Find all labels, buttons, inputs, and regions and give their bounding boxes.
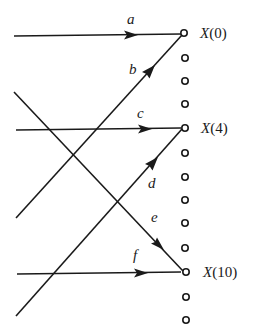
edge-label-d: d: [148, 175, 156, 191]
node-8: [182, 220, 188, 226]
node-6: [182, 174, 188, 180]
edge-e: e: [14, 92, 183, 271]
edge-label-e: e: [151, 209, 158, 225]
node-12: [183, 317, 189, 323]
edge-f: f: [17, 247, 181, 278]
edge-label-b: b: [129, 61, 137, 77]
node-5: [182, 150, 188, 156]
output-label-x4: X(4): [200, 120, 228, 137]
edge-label-c: c: [137, 105, 144, 121]
node-10: [183, 269, 189, 275]
node-2: [182, 78, 188, 84]
node-0: [181, 30, 187, 36]
edge-label-a: a: [127, 11, 135, 27]
node-column: [181, 30, 189, 323]
edge-b: b: [16, 35, 182, 218]
edge-label-f: f: [133, 247, 139, 263]
node-3: [182, 101, 188, 107]
flow-graph: a b c d e f: [0, 0, 259, 334]
output-label-x0: X(0): [199, 25, 227, 42]
output-label-x10: X(10): [202, 264, 237, 281]
node-11: [183, 294, 189, 300]
node-7: [182, 197, 188, 203]
edge-a: a: [14, 11, 181, 40]
node-9: [182, 245, 188, 251]
node-1: [182, 55, 188, 61]
node-4: [182, 125, 188, 131]
